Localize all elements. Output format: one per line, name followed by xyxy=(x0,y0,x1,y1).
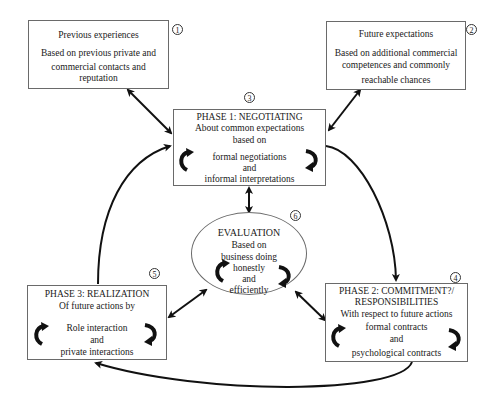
arrow-future-phase1 xyxy=(329,90,360,130)
cycle-arrow-right-icon xyxy=(276,264,294,288)
node-title: PHASE 3: REALIZATION xyxy=(28,288,166,300)
node-number-badge: 1 xyxy=(172,24,183,35)
node-phase1-negotiating: PHASE 1: NEGOTIATING About common expect… xyxy=(173,109,326,186)
arrow-phase1-phase2 xyxy=(326,146,396,280)
node-line: reachable chances xyxy=(327,74,465,86)
arrow-previous-phase1 xyxy=(128,90,171,133)
node-number-badge: 4 xyxy=(450,272,461,283)
node-line: private interactions xyxy=(28,346,166,358)
arrow-phase2-phase3 xyxy=(96,362,412,387)
arrow-phase3-phase1 xyxy=(98,146,170,284)
node-title: Previous experiences xyxy=(29,29,168,41)
node-line: About common expectations xyxy=(174,122,325,134)
node-number-badge: 3 xyxy=(244,92,255,103)
node-title-line2: RESPONSIBILITIES xyxy=(326,296,467,308)
node-line: Based on xyxy=(191,239,307,251)
node-future-expectations: Future expectations Based on additional … xyxy=(326,21,466,90)
node-line: based on xyxy=(174,134,325,146)
cycle-arrow-right-icon xyxy=(142,322,160,346)
cycle-arrow-right-icon xyxy=(446,327,464,351)
node-previous-experiences: Previous experiences Based on previous p… xyxy=(28,20,169,89)
node-line: competences and commonly xyxy=(327,59,465,71)
cycle-arrow-right-icon xyxy=(303,148,321,172)
node-number-badge: 2 xyxy=(466,24,477,35)
node-line: With respect to future actions xyxy=(326,308,467,320)
arrow-evaluation-phase2 xyxy=(296,292,325,320)
node-line: informal interpretations xyxy=(174,173,325,185)
node-phase2-commitment: PHASE 2: COMMITMENT?/ RESPONSIBILITIES W… xyxy=(325,283,468,362)
node-number-badge: 5 xyxy=(149,268,160,279)
node-title: Future expectations xyxy=(327,28,465,40)
node-line: reputation xyxy=(29,72,168,84)
cycle-arrow-left-icon xyxy=(177,148,195,172)
cycle-arrow-left-icon xyxy=(329,324,347,348)
node-title: EVALUATION xyxy=(191,227,307,239)
node-number-badge: 6 xyxy=(290,210,301,221)
node-phase3-realization: PHASE 3: REALIZATION Of future actions b… xyxy=(27,285,167,360)
node-line: Of future actions by xyxy=(28,300,166,312)
cycle-arrow-left-icon xyxy=(32,322,50,346)
node-line: Based on previous private and xyxy=(29,47,168,59)
node-line: Based on additional commercial xyxy=(327,47,465,59)
cycle-arrow-left-icon xyxy=(213,259,231,283)
